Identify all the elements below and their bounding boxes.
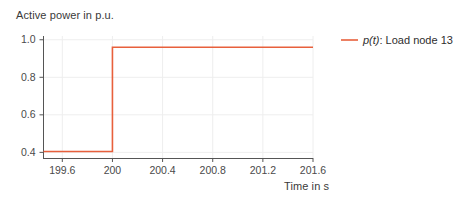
plot-area: 0.40.60.81.0 199.6200200.4200.8201.2201.… [0,0,464,200]
vertical-gridlines [62,36,313,158]
svg-text:201.2: 201.2 [250,164,276,176]
horizontal-gridlines [44,40,314,153]
svg-text:200.4: 200.4 [149,164,175,176]
svg-text:199.6: 199.6 [49,164,75,176]
svg-text:0.6: 0.6 [21,108,36,120]
chart-container: Active power in p.u. Time in s 0.40.60.8… [0,0,464,200]
svg-text:1.0: 1.0 [21,33,36,45]
svg-text:0.4: 0.4 [21,146,36,158]
svg-text:200: 200 [104,164,122,176]
legend-label-load-node-13: p(t): Load node 13 [362,34,453,46]
svg-text:0.8: 0.8 [21,71,36,83]
svg-text:200.8: 200.8 [200,164,226,176]
svg-text:201.6: 201.6 [300,164,326,176]
series-line-load-node-13 [44,47,314,151]
y-axis-ticks: 0.40.60.81.0 [21,33,44,158]
x-axis-ticks: 199.6200200.4200.8201.2201.6 [49,158,326,176]
